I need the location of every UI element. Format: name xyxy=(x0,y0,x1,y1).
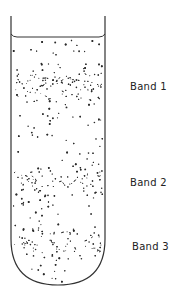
particle-dots xyxy=(13,40,103,283)
band-1-label: Band 1 xyxy=(130,81,167,92)
liquid-meniscus xyxy=(11,34,105,37)
band-2-label: Band 2 xyxy=(130,177,167,188)
band-3-label: Band 3 xyxy=(132,241,169,252)
